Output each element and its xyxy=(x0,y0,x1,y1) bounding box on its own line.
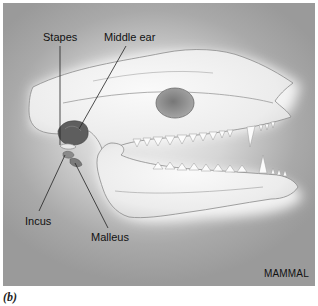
incus-leader xyxy=(39,155,65,211)
panel-title: MAMMAL xyxy=(264,268,309,279)
orbit xyxy=(156,88,194,118)
illustration-panel: Stapes Middle ear Incus Malleus MAMMAL xyxy=(3,3,315,286)
incus-label: Incus xyxy=(25,216,51,227)
figure-caption: (b) xyxy=(3,290,17,305)
incus-bone xyxy=(63,151,74,158)
middle-ear-cavity xyxy=(58,121,88,145)
malleus-label: Malleus xyxy=(91,232,129,243)
mammal-skull-illustration xyxy=(3,3,315,286)
figure: Stapes Middle ear Incus Malleus MAMMAL (… xyxy=(0,0,318,306)
middle-ear-label: Middle ear xyxy=(104,32,155,43)
stapes-label: Stapes xyxy=(43,32,77,43)
